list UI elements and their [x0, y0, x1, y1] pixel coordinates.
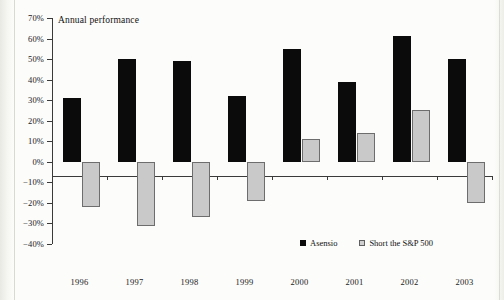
x-tick [382, 176, 383, 180]
bar-asensio-1998 [173, 61, 191, 162]
y-tick-label: 60% [28, 34, 44, 44]
bar-asensio-2002 [393, 36, 411, 161]
y-tick-label: 20% [28, 116, 44, 126]
y-tick [47, 121, 52, 122]
y-tick-label: −40% [23, 239, 44, 249]
y-tick [47, 223, 52, 224]
legend-label-short-sp500: Short the S&P 500 [369, 238, 433, 248]
dark-square-icon [300, 240, 306, 246]
y-tick [47, 162, 52, 163]
x-axis-label-2002: 2002 [401, 277, 419, 287]
bar-short-the-s-p-500-2003 [467, 162, 485, 203]
y-tick [47, 100, 52, 101]
bar-short-the-s-p-500-1999 [247, 162, 265, 201]
x-tick [437, 176, 438, 180]
y-tick-label: −20% [23, 198, 44, 208]
y-tick-label: 0% [32, 157, 44, 167]
bar-short-the-s-p-500-2002 [412, 110, 430, 161]
chart-legend: Asensio Short the S&P 500 [300, 238, 433, 248]
bar-asensio-1996 [63, 98, 81, 162]
legend-item-asensio: Asensio [300, 238, 337, 248]
x-axis-label-1998: 1998 [181, 277, 199, 287]
legend-label-asensio: Asensio [310, 238, 337, 248]
x-axis-label-1996: 1996 [71, 277, 89, 287]
page-margin-rule-right [499, 0, 500, 300]
y-tick-label: 40% [28, 75, 44, 85]
legend-item-short-sp500: Short the S&P 500 [359, 238, 433, 248]
y-tick-label: 50% [28, 54, 44, 64]
page-margin-rule-left [14, 0, 15, 300]
x-tick [162, 176, 163, 180]
y-axis-line [52, 18, 53, 244]
y-tick-label: 70% [28, 13, 44, 23]
bar-short-the-s-p-500-1997 [137, 162, 155, 226]
x-tick [217, 176, 218, 180]
bar-short-the-s-p-500-2001 [357, 133, 375, 162]
chart-figure: Annual performance 70%60%50%40%30%20%10%… [0, 0, 504, 300]
y-tick [47, 244, 52, 245]
x-axis-label-1997: 1997 [126, 277, 144, 287]
y-tick [47, 18, 52, 19]
bar-short-the-s-p-500-1996 [82, 162, 100, 207]
bar-asensio-2000 [283, 49, 301, 162]
y-tick [47, 59, 52, 60]
y-tick-label: 10% [28, 136, 44, 146]
page-edge-shadow-left [0, 0, 14, 300]
y-tick-label: −10% [23, 177, 44, 187]
x-tick [272, 176, 273, 180]
x-axis-label-2001: 2001 [346, 277, 364, 287]
x-tick [107, 176, 108, 180]
y-tick [47, 39, 52, 40]
y-tick [47, 141, 52, 142]
x-axis-label-1999: 1999 [236, 277, 254, 287]
plot-area: 70%60%50%40%30%20%10%0%−10%−20%−30%−40% [52, 18, 492, 244]
bar-asensio-1999 [228, 96, 246, 162]
y-tick [47, 203, 52, 204]
bar-asensio-2003 [448, 59, 466, 162]
x-tick [492, 176, 493, 180]
x-axis-label-2003: 2003 [456, 277, 474, 287]
bar-asensio-1997 [118, 59, 136, 162]
y-tick-label: 30% [28, 95, 44, 105]
bar-asensio-2001 [338, 82, 356, 162]
y-tick-label: −30% [23, 218, 44, 228]
y-tick [47, 80, 52, 81]
y-tick [47, 182, 52, 183]
x-axis-label-2000: 2000 [291, 277, 309, 287]
bar-short-the-s-p-500-2000 [302, 139, 320, 162]
bar-short-the-s-p-500-1998 [192, 162, 210, 217]
light-square-icon [359, 240, 365, 246]
x-tick [327, 176, 328, 180]
